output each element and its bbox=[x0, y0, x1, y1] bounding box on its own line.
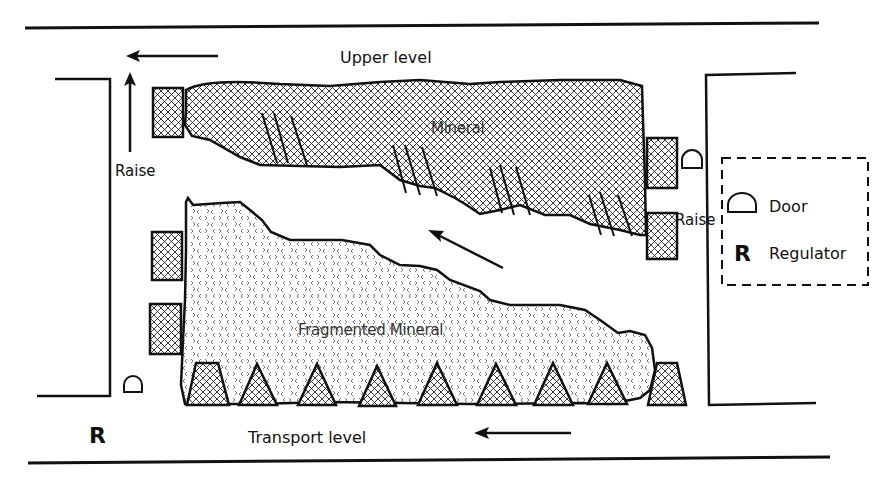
legend-door-icon bbox=[728, 193, 756, 212]
regulator-symbol: R bbox=[89, 423, 106, 448]
raise-up-arrow-icon bbox=[124, 72, 136, 152]
legend: Door R Regulator bbox=[722, 158, 868, 285]
transport-level-bottom-line bbox=[28, 457, 830, 463]
door-icon bbox=[682, 150, 702, 168]
transport-level-label: Transport level bbox=[247, 428, 366, 447]
raise-left-label: Raise bbox=[115, 162, 156, 180]
legend-regulator-label: Regulator bbox=[769, 244, 847, 263]
upper-level-arrow-icon bbox=[126, 50, 218, 62]
door-icon bbox=[124, 376, 142, 392]
fragmented-mineral-label: Fragmented Mineral bbox=[298, 321, 443, 339]
stope-flow-arrow-icon bbox=[428, 230, 503, 268]
right-pillar-blocks bbox=[647, 138, 677, 259]
left-pillar-blocks bbox=[150, 88, 183, 354]
mining-diagram: Mineral Fragmented Mineral Raise Raise bbox=[0, 0, 895, 485]
raise-right-label: Raise bbox=[675, 211, 716, 229]
transport-level-arrow-icon bbox=[474, 427, 571, 439]
upper-level-label: Upper level bbox=[340, 48, 432, 67]
legend-door-label: Door bbox=[769, 197, 808, 216]
mineral-label: Mineral bbox=[431, 119, 484, 137]
upper-level-top-line bbox=[25, 23, 819, 28]
left-raise-wall bbox=[37, 79, 110, 396]
mineral-ore-body bbox=[185, 80, 646, 235]
legend-regulator-symbol: R bbox=[734, 241, 751, 266]
